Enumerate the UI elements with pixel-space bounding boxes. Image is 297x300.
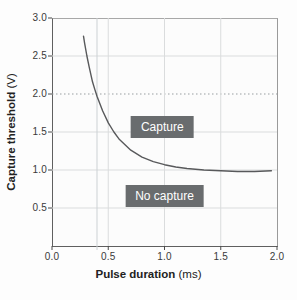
x-tick-label: 2.0 [262, 251, 292, 262]
no-capture-region-label: No capture [125, 185, 204, 207]
x-tick-label: 1.5 [206, 251, 236, 262]
x-axis-title-unit: (ms) [175, 268, 201, 280]
y-tick-label: 1.5 [19, 126, 47, 137]
y-axis-title: Capture threshold (V) [5, 32, 17, 232]
y-tick-label: 2.0 [19, 88, 47, 99]
y-tick-label: 0.5 [19, 202, 47, 213]
y-axis-title-text: Capture threshold [5, 92, 17, 191]
x-tick-label: 0.0 [37, 251, 67, 262]
capture-region-label: Capture [131, 116, 194, 138]
y-axis-title-unit: (V) [5, 73, 17, 92]
y-tick-label: 3.0 [19, 12, 47, 23]
x-tick-label: 1.0 [150, 251, 180, 262]
x-axis-title-text: Pulse duration [95, 268, 175, 280]
x-axis-title: Pulse duration (ms) [0, 268, 297, 280]
y-tick-label: 1.0 [19, 164, 47, 175]
y-tick-label: 2.5 [19, 50, 47, 61]
strength-duration-chart: Capture threshold (V) Pulse duration (ms… [0, 0, 297, 300]
x-tick-label: 0.5 [93, 251, 123, 262]
